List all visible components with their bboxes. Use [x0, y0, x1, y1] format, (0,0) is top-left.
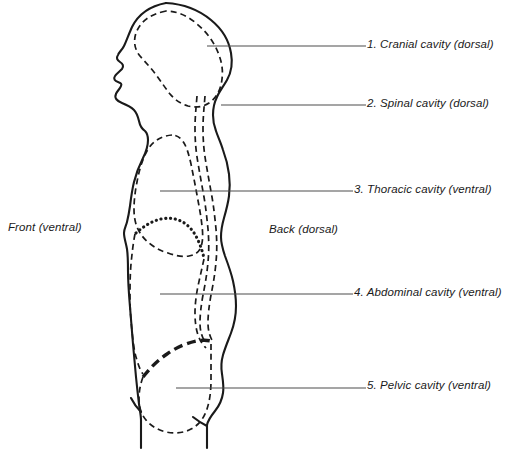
body-outline-back	[166, 3, 236, 448]
pelvic-brim-divider	[143, 340, 211, 377]
diaphragm-dotted-line	[136, 218, 204, 258]
spinal-cavity-shape	[195, 96, 217, 342]
abdominal-cavity-line-dorsal	[195, 259, 206, 348]
spinal-cavity-line-anterior	[195, 96, 209, 342]
cavity-label-pelvic: 5. Pelvic cavity (ventral)	[367, 379, 491, 391]
pelvic-brim-bold-dashed-line	[143, 340, 211, 377]
cavity-label-spinal: 2. Spinal cavity (dorsal)	[367, 97, 489, 109]
cavity-label-cranial: 1. Cranial cavity (dorsal)	[367, 38, 494, 50]
abdominal-cavity-line-ventral	[130, 234, 143, 374]
leader-lines-group	[160, 46, 366, 388]
leg-notch-back	[193, 417, 207, 426]
cavity-label-abdominal: 4. Abdominal cavity (ventral)	[354, 286, 502, 298]
body-outline-group	[114, 3, 236, 448]
cavity-label-thoracic: 3. Thoracic cavity (ventral)	[354, 183, 492, 195]
cranial-cavity-outline	[135, 11, 223, 107]
body-outline-front	[114, 3, 166, 448]
cranial-cavity-shape	[135, 11, 223, 107]
pelvic-cavity-shape	[139, 341, 211, 433]
spinal-cavity-line-posterior	[203, 96, 217, 342]
orientation-label-back: Back (dorsal)	[269, 223, 338, 235]
pelvic-cavity-outline	[139, 341, 211, 433]
orientation-label-front: Front (ventral)	[8, 221, 82, 233]
diaphragm-divider	[136, 218, 204, 258]
